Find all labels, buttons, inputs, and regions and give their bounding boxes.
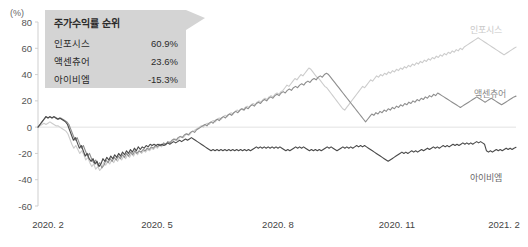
x-tick-label: 2020. 5 bbox=[141, 219, 173, 230]
x-tick-label: 2021. 2 bbox=[488, 219, 520, 230]
legend-title: 주가수익률 순위 bbox=[54, 17, 120, 29]
y-tick-label: -40 bbox=[18, 174, 32, 185]
legend-row-value-1: 23.6% bbox=[151, 56, 178, 67]
ranking-legend-box: 주가수익률 순위 인포시스 60.9% 액센츄어 23.6% 아이비엠 -15.… bbox=[45, 10, 205, 88]
x-tick-label: 2020. 8 bbox=[262, 219, 294, 230]
x-tick-label: 2020. 2 bbox=[32, 219, 64, 230]
stock-return-chart: (%) 806040200-20-40-60 2020. 22020. 5202… bbox=[0, 0, 528, 247]
series-label-accenture: 액센츄어 bbox=[474, 88, 506, 99]
y-tick-label: 40 bbox=[21, 69, 32, 80]
y-tick-label: 0 bbox=[27, 122, 32, 133]
legend-row-value-0: 60.9% bbox=[151, 38, 178, 49]
y-tick-label: 60 bbox=[21, 43, 32, 54]
legend-row-value-2: -15.3% bbox=[148, 74, 179, 85]
x-tick-label: 2020. 11 bbox=[379, 219, 415, 230]
series-label-ibm: 아이비엠 bbox=[470, 172, 502, 183]
y-tick-label: -20 bbox=[18, 148, 32, 159]
legend-row-name-1: 액센츄어 bbox=[54, 56, 90, 67]
y-tick-label: 20 bbox=[21, 95, 32, 106]
y-tick-label: 80 bbox=[21, 17, 32, 28]
x-axis-tick-labels: 2020. 22020. 52020. 82020. 112021. 2 bbox=[32, 219, 520, 230]
legend-row-name-2: 아이비엠 bbox=[54, 74, 90, 85]
line-ibm bbox=[38, 117, 516, 167]
y-tick-label: -60 bbox=[18, 201, 32, 212]
legend-row-name-0: 인포시스 bbox=[54, 38, 90, 49]
series-label-infosys: 인포시스 bbox=[470, 25, 502, 35]
y-axis-tick-labels: 806040200-20-40-60 bbox=[18, 17, 38, 212]
